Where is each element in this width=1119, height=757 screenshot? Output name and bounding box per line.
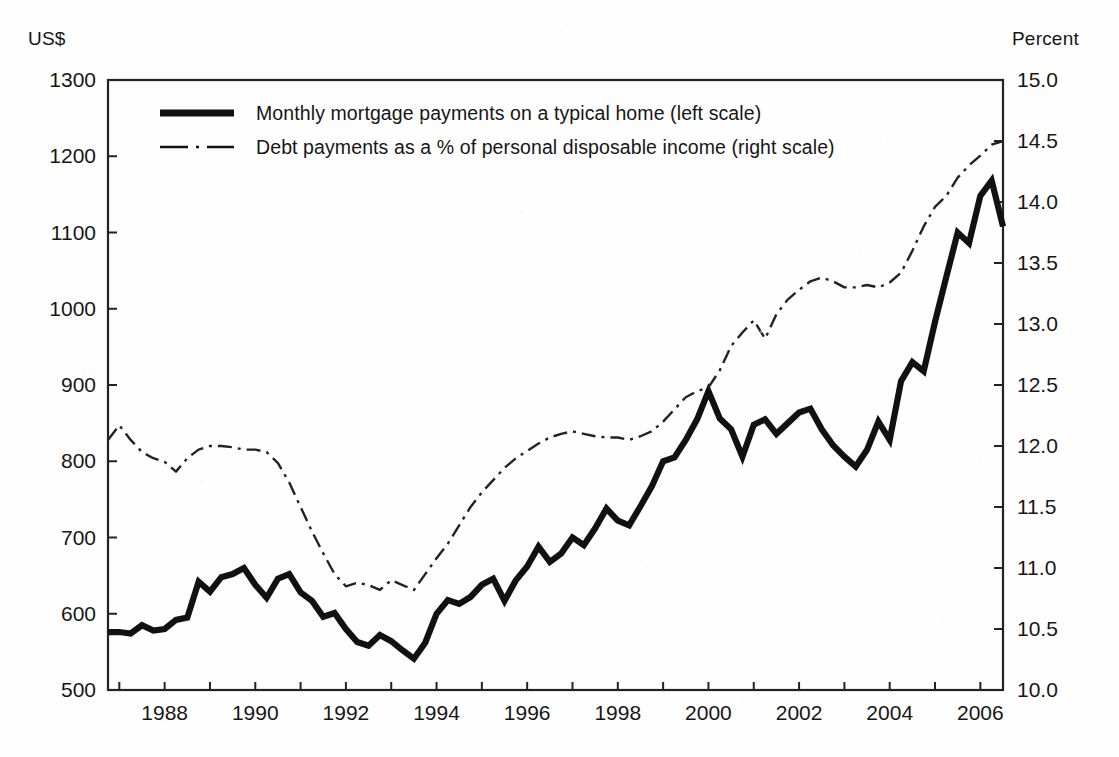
axis-tick-marks [108, 141, 1003, 690]
plot-canvas [0, 0, 1119, 757]
chart-figure: US$ Percent 1300120011001000900800700600… [0, 0, 1119, 757]
series-line-debt-service-ratio [108, 141, 1003, 590]
axis-frame [108, 80, 1003, 690]
series-line-mortgage-payments [108, 181, 1003, 659]
